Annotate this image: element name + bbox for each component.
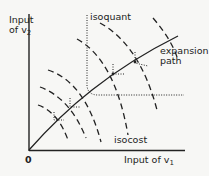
y-axis-label: Input of v2 — [9, 15, 34, 38]
expansion-path-label: expansion path — [160, 46, 209, 66]
isoquant-label: isoquant — [90, 12, 131, 22]
isocost-lines — [38, 18, 178, 142]
isoquants — [54, 15, 184, 120]
x-axis-label: Input of v1 — [124, 155, 174, 168]
origin-label: 0 — [25, 155, 32, 165]
isocost-label: isocost — [114, 135, 147, 145]
